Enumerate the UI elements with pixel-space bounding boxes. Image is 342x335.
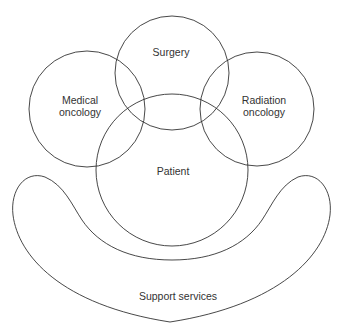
radiation-oncology-label: Radiation oncology — [242, 94, 286, 118]
support-services-label: Support services — [139, 290, 217, 302]
medical-oncology-label: Medical oncology — [59, 94, 101, 118]
patient-label: Patient — [157, 165, 190, 177]
surgery-label: Surgery — [153, 46, 190, 58]
